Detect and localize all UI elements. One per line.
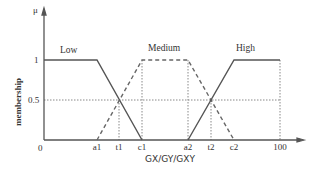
x-tick-t1: t1: [115, 142, 122, 152]
y-tick-1: 1: [34, 55, 39, 65]
x-tick-a1: a1: [93, 142, 102, 152]
x-tick-t2: t2: [207, 142, 214, 152]
label-low: Low: [60, 45, 78, 55]
reference-lines: [44, 60, 280, 140]
y-tick-0: 0: [38, 143, 43, 153]
membership-function-chart: Low Medium High μ 1 0.5 0 membership a1 …: [0, 0, 316, 171]
x-tick-c1: c1: [138, 142, 147, 152]
x-tick-a2: a2: [184, 142, 193, 152]
label-high: High: [236, 43, 255, 53]
y-axis-title: membership: [13, 78, 23, 126]
x-axis-arrow: [297, 138, 304, 142]
x-axis-title: GX/GY/GXY: [145, 154, 195, 164]
y-axis-arrow: [42, 8, 46, 15]
x-tick-100: 100: [273, 142, 287, 152]
label-medium: Medium: [148, 43, 181, 53]
y-tick-0.5: 0.5: [28, 95, 40, 105]
axes: [42, 8, 304, 142]
y-axis-symbol: μ: [33, 5, 38, 15]
x-tick-c2: c2: [230, 142, 239, 152]
